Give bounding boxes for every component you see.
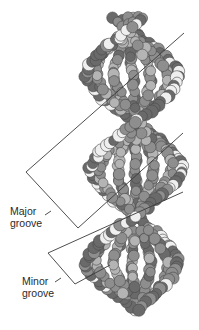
major-groove-label: Major groove [10,205,42,229]
major-groove-tick [45,211,51,215]
major-groove-label-line1: Major [10,205,42,217]
dna-helix-model [79,11,189,316]
minor-groove-label-line1: Minor [22,275,54,287]
minor-groove-label: Minor groove [22,275,54,299]
major-groove-label-line2: groove [10,217,42,229]
minor-groove-tick [55,278,61,282]
minor-groove-label-line2: groove [22,287,54,299]
